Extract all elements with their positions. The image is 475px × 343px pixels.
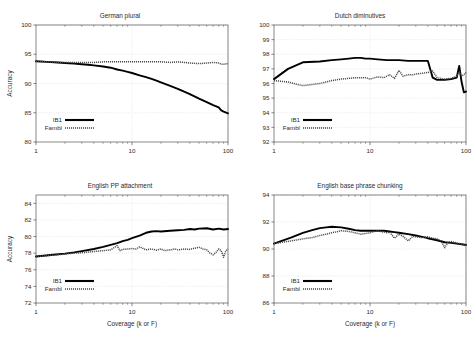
x-tick-label: 100 [223,308,234,315]
x-tick-label: 1 [34,308,38,315]
x-axis-title: Coverage (k or F) [107,320,157,328]
plot-area: 72747678808284110100AccuracyCoverage (k … [6,195,234,328]
chart-svg-english-pp-attachment: English PP attachment 727476788082841101… [0,172,237,343]
x-tick-label: 1 [272,147,276,154]
legend-label-fambl: Fambl [45,285,62,292]
x-tick-label: 1 [34,147,38,154]
chart-panel-german-plural: German plural 80859095100110100AccuracyI… [0,0,237,171]
plot-area: 8688909294110100Coverage (k or F)IB1Famb… [263,191,472,328]
chart-svg-german-plural: German plural 80859095100110100AccuracyI… [0,0,237,171]
legend-label-ib1: IB1 [53,116,63,123]
y-tick-label: 97 [263,65,270,72]
y-tick-label: 96 [263,80,270,87]
x-tick-label: 10 [367,308,374,315]
chart-panel-dutch-diminutives: Dutch diminutives 9293949596979899100110… [238,0,475,171]
y-tick-label: 95 [25,50,32,57]
chart-svg-english-base-phrase-chunking: English base phrase chunking 86889092941… [238,172,475,343]
y-tick-label: 88 [263,272,270,279]
x-tick-label: 1 [272,308,276,315]
y-tick-label: 90 [25,80,32,87]
legend-label-ib1: IB1 [291,116,301,123]
chart-title: German plural [100,12,141,20]
chart-title: English PP attachment [88,182,153,190]
y-tick-label: 86 [263,299,270,306]
y-tick-label: 99 [263,36,270,43]
y-tick-label: 100 [21,21,32,28]
x-tick-label: 100 [223,147,234,154]
y-tick-label: 93 [263,124,270,131]
legend-label-fambl: Fambl [283,124,300,131]
y-tick-label: 82 [25,216,32,223]
chart-panel-english-pp-attachment: English PP attachment 727476788082841101… [0,172,237,343]
y-tick-label: 94 [263,191,270,198]
y-axis-title: Accuracy [6,235,14,262]
chart-title: English base phrase chunking [317,182,403,190]
y-tick-label: 74 [25,283,32,290]
plot-area: 80859095100110100AccuracyIB1Fambl [6,21,234,153]
chart-panel-english-base-phrase-chunking: English base phrase chunking 86889092941… [238,172,475,343]
y-tick-label: 80 [25,138,32,145]
y-axis-title: Accuracy [6,70,14,97]
series-line-ib1 [274,227,466,245]
legend-label-ib1: IB1 [291,277,301,284]
y-tick-label: 98 [263,50,270,57]
y-tick-label: 95 [263,94,270,101]
y-tick-label: 94 [263,109,270,116]
figure-container: German plural 80859095100110100AccuracyI… [0,0,475,343]
x-tick-label: 10 [129,147,136,154]
y-tick-label: 80 [25,233,32,240]
x-tick-label: 100 [461,308,472,315]
y-tick-label: 84 [25,200,32,207]
chart-title: Dutch diminutives [335,12,385,19]
legend-label-fambl: Fambl [283,285,300,292]
y-tick-label: 100 [259,21,270,28]
plot-area: 9293949596979899100110100IB1Fambl [259,21,472,153]
y-tick-label: 85 [25,109,32,116]
y-tick-label: 90 [263,245,270,252]
y-tick-label: 92 [263,138,270,145]
y-tick-label: 76 [25,266,32,273]
y-tick-label: 92 [263,218,270,225]
x-axis-title: Coverage (k or F) [345,320,395,328]
x-tick-label: 10 [129,308,136,315]
x-tick-label: 10 [367,147,374,154]
legend-label-ib1: IB1 [53,277,63,284]
series-line-fambl [36,246,228,258]
y-tick-label: 72 [25,299,32,306]
chart-svg-dutch-diminutives: Dutch diminutives 9293949596979899100110… [238,0,475,171]
y-tick-label: 78 [25,249,32,256]
legend-label-fambl: Fambl [45,124,62,131]
x-tick-label: 100 [461,147,472,154]
